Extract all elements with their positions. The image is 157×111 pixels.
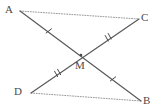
point-label-A: A — [5, 4, 13, 15]
segment-AC-dotted — [20, 11, 139, 19]
geometry-diagram: A C D B M — [0, 0, 157, 111]
point-label-M: M — [75, 60, 85, 71]
segment-DB-dotted — [31, 93, 141, 101]
point-M-marker — [80, 54, 83, 57]
point-label-D: D — [14, 86, 22, 97]
geometry-canvas — [0, 0, 157, 111]
tick-mark-MC — [105, 33, 111, 41]
point-label-C: C — [141, 12, 148, 23]
point-label-B: B — [143, 95, 150, 106]
segment-DC-solid — [31, 19, 139, 93]
